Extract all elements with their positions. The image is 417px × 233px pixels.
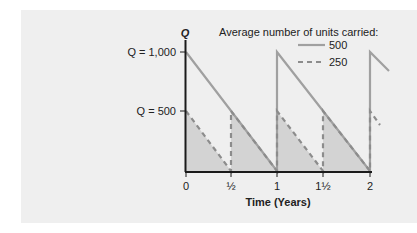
sawtooth-inventory-chart: Q Q = 1,000 Q = 500 0 ½ 1 1½ 2 Time (Yea… (0, 0, 417, 233)
y-tick-label-500: Q = 500 (137, 105, 176, 117)
legend: Average number of units carried: 500 250 (219, 26, 378, 68)
legend-title: Average number of units carried: (219, 26, 378, 38)
y-axis-title: Q (181, 27, 190, 39)
x-tick-label-1-half: 1½ (315, 180, 330, 192)
x-tick-label-half: ½ (226, 180, 235, 192)
legend-label-250: 250 (329, 56, 347, 68)
x-tick-label-2: 2 (367, 180, 373, 192)
x-tick-label-1: 1 (274, 180, 280, 192)
y-tick-label-1000: Q = 1,000 (127, 46, 176, 58)
x-axis-title: Time (Years) (245, 196, 311, 208)
legend-label-500: 500 (329, 39, 347, 51)
x-tick-label-0: 0 (183, 180, 189, 192)
